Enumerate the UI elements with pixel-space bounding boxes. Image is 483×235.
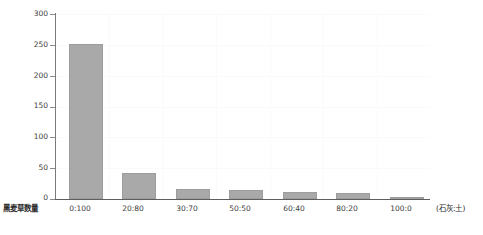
y-axis-tick-label-group: 300 250 200 150 100 50 0: [22, 0, 48, 235]
y-axis-tick-label: 150: [34, 102, 48, 110]
y-axis-tick-label: 300: [34, 10, 48, 18]
gridline-vertical: [270, 14, 271, 199]
gridline-horizontal: [56, 76, 430, 77]
x-axis-tick-label: 80:20: [323, 204, 371, 213]
y-axis-line: [55, 13, 56, 200]
y-axis-tick-label: 100: [34, 133, 48, 141]
x-axis-tick-label: 0:100: [56, 204, 104, 213]
gridline-horizontal: [56, 168, 430, 169]
gridline-vertical: [216, 14, 217, 199]
bar: [176, 189, 210, 200]
gridline-vertical: [323, 14, 324, 199]
gridline-horizontal: [56, 107, 430, 108]
y-axis-tick-label: 50: [38, 164, 48, 172]
x-axis-unit-label: (石灰:土): [436, 204, 465, 213]
bar: [122, 173, 156, 199]
bar: [229, 190, 263, 199]
x-axis-tick-label: 60:40: [270, 204, 318, 213]
x-axis-tick-label: 100:0: [377, 204, 425, 213]
y-axis-title: 黑麦草数量: [3, 204, 38, 213]
x-axis-tick-label: 50:50: [216, 204, 264, 213]
y-axis-tick-label: 0: [43, 194, 48, 202]
y-axis-tick-label: 250: [34, 41, 48, 49]
x-axis-tick-label: 20:80: [109, 204, 157, 213]
gridline-vertical: [109, 14, 110, 199]
gridline-horizontal: [56, 14, 430, 15]
gridline-vertical: [163, 14, 164, 199]
gridline-vertical: [377, 14, 378, 199]
x-axis-tick-label: 30:70: [163, 204, 211, 213]
plot-area: [56, 14, 430, 199]
y-axis-tick-label: 200: [34, 72, 48, 80]
bar: [69, 44, 103, 199]
bar-chart: 300 250 200 150 100 50 0: [0, 0, 483, 235]
x-axis-line: [55, 199, 430, 200]
gridline-horizontal: [56, 45, 430, 46]
bar: [283, 192, 317, 199]
gridline-horizontal: [56, 137, 430, 138]
